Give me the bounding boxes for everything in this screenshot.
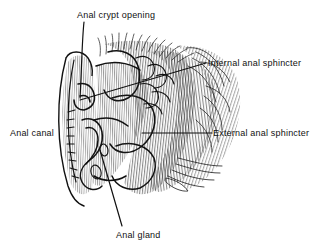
anal-canal-anatomy-illustration — [0, 0, 336, 251]
label-anal-crypt-opening: Anal crypt opening — [77, 10, 155, 20]
label-internal-anal-sphincter: Internal anal sphincter — [208, 58, 301, 68]
label-external-anal-sphincter: External anal sphincter — [213, 128, 309, 138]
figure-canvas: Anal crypt opening Internal anal sphinct… — [0, 0, 336, 251]
label-anal-gland: Anal gland — [116, 230, 161, 240]
label-anal-canal: Anal canal — [10, 128, 54, 138]
